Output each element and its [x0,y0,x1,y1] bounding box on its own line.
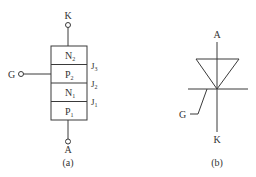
junction-label-j3: J3 [91,61,98,72]
cathode-label-a: K [64,10,72,21]
figure-a-structure: K N2 P2 N1 P1 J3 J2 J1 G A (a) [8,10,98,169]
layer-n1: N1 [65,87,75,99]
anode-label-b: A [213,29,221,40]
thyristor-diagram: K N2 P2 N1 P1 J3 J2 J1 G A (a) A G [0,0,256,177]
anode-label-a: A [64,144,72,155]
layer-p2: P2 [65,69,74,81]
figure-b-symbol: A G K (b) [179,29,248,169]
layer-p1: P1 [65,106,74,118]
gate-terminal-a [19,72,24,77]
layer-n2: N2 [65,50,75,62]
junction-label-j1: J1 [91,97,98,108]
gate-label-b: G [179,109,186,120]
caption-a: (a) [62,157,73,169]
junction-label-j2: J2 [91,79,98,90]
gate-label-a: G [8,69,15,80]
cathode-label-b: K [213,134,221,145]
cathode-terminal-a [66,23,71,28]
caption-b: (b) [211,157,223,169]
gate-lead-b [190,89,207,114]
